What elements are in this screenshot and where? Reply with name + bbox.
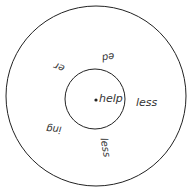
word-wheel-graphic [0, 0, 194, 192]
suffix-ed: ed [101, 51, 115, 64]
suffix-ing: ing [46, 123, 62, 135]
outer-circle [6, 6, 186, 186]
suffix-less-right: less [136, 96, 157, 109]
center-word: help [99, 92, 123, 105]
center-dot [94, 98, 97, 101]
